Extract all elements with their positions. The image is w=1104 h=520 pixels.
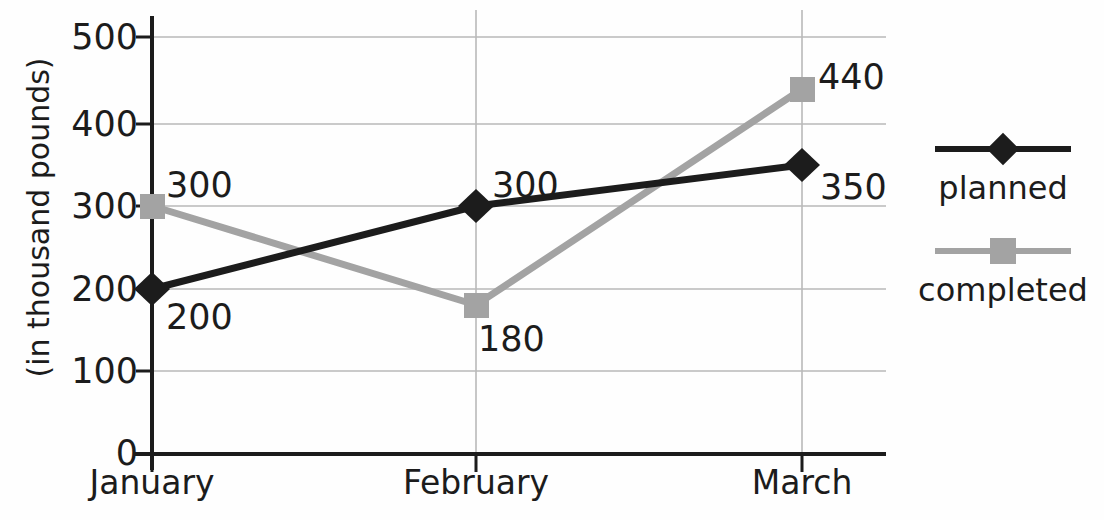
value-label-completed-february: 180 [478,322,545,357]
value-label-planned-march: 350 [820,170,887,205]
marker-completed-february [464,293,489,318]
gridlines-vertical [476,10,802,454]
chart-legend: planned completed [905,132,1101,335]
chart-page: (in thousand pounds) 500 400 300 200 100… [0,0,1104,520]
legend-label-completed: completed [905,274,1101,308]
diamond-marker-icon [987,133,1020,166]
marker-completed-march [790,77,815,102]
axis-lines [133,16,886,470]
square-marker-icon [990,238,1016,264]
marker-planned-march [784,148,820,182]
legend-entry-completed[interactable]: completed [905,234,1101,308]
legend-entry-planned[interactable]: planned [905,132,1101,206]
value-label-planned-january: 200 [166,300,233,335]
axis-ticks [136,37,802,472]
value-label-planned-february: 300 [492,168,559,203]
x-tick-january: January [89,466,214,499]
series-planned [134,148,820,306]
x-tick-february: February [403,466,549,499]
legend-label-planned: planned [905,172,1101,206]
marker-planned-february [458,189,494,223]
series-planned-line [152,165,802,289]
value-label-completed-january: 300 [166,168,233,203]
marker-planned-january [134,272,170,306]
legend-swatch-planned [923,132,1083,166]
legend-swatch-completed [923,234,1083,268]
x-tick-march: March [752,466,853,499]
value-label-completed-march: 440 [818,60,885,95]
marker-completed-january [140,194,165,219]
